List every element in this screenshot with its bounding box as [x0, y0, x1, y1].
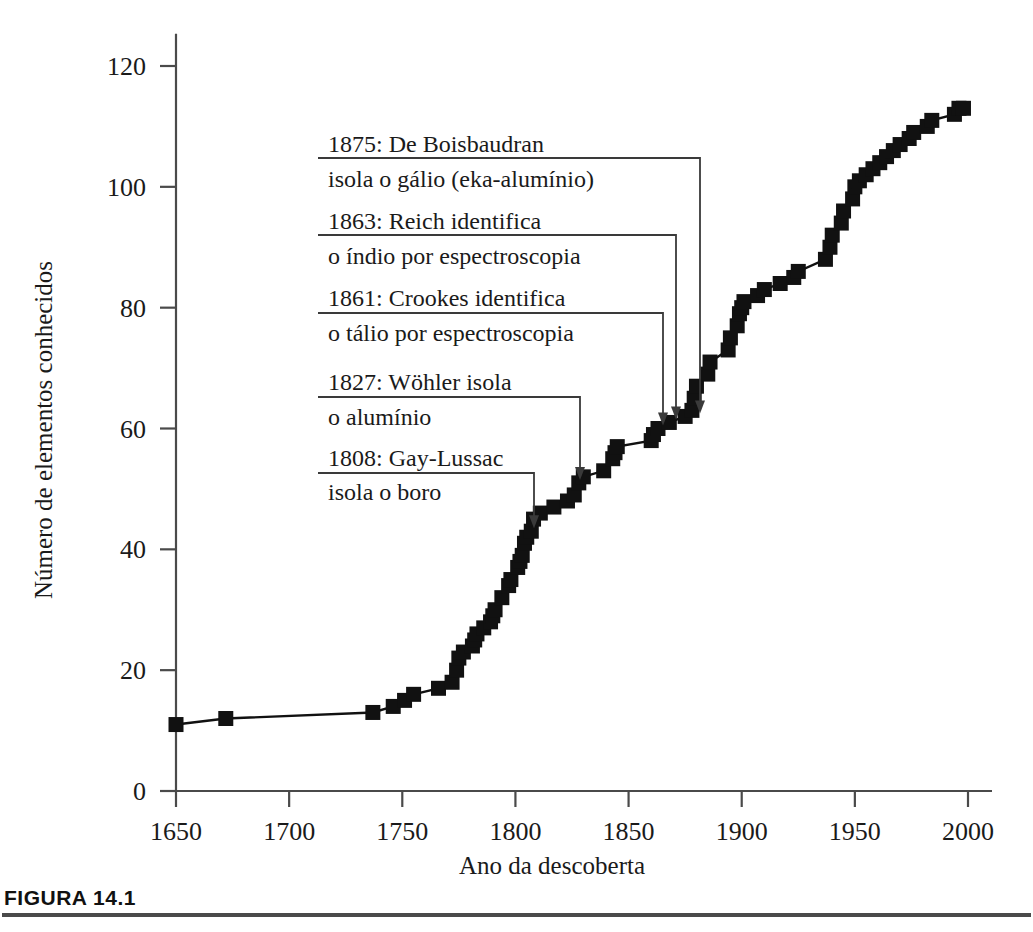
annotation-labels: 1875: De Boisbaudran isola o gálio (eka-… [328, 131, 594, 505]
y-tick-label: 120 [107, 52, 146, 81]
x-tick-label: 1950 [829, 817, 881, 846]
annotation-1861-line2: o tálio por espectroscopia [328, 320, 574, 346]
axes-group [160, 34, 992, 807]
data-point-marker [757, 282, 772, 297]
data-point-marker [610, 439, 625, 454]
y-axis-ticks [160, 66, 176, 791]
y-tick-label: 40 [120, 535, 146, 564]
figure-caption-rule [2, 913, 1031, 917]
x-tick-label: 2000 [942, 817, 994, 846]
series-markers [169, 101, 971, 732]
data-point-marker [703, 355, 718, 370]
annotation-1861-line1: 1861: Crookes identifica [328, 285, 566, 311]
annotation-1863-line1: 1863: Reich identifica [328, 208, 542, 234]
y-axis-tick-labels: 020406080100120 [107, 52, 146, 806]
y-tick-label: 80 [120, 294, 146, 323]
figure-container: 020406080100120 165017001750180018501900… [0, 0, 1033, 932]
data-point-marker [736, 294, 751, 309]
x-axis-ticks [176, 791, 968, 807]
x-tick-label: 1650 [150, 817, 202, 846]
x-tick-label: 1700 [263, 817, 315, 846]
x-tick-label: 1850 [603, 817, 655, 846]
data-point-marker [218, 711, 233, 726]
data-point-marker [431, 681, 446, 696]
data-point-marker [924, 113, 939, 128]
annotation-1827-line2: o alumínio [328, 404, 431, 430]
annotation-1808-line1: 1808: Gay-Lussac [328, 445, 503, 471]
annotation-1827-line1: 1827: Wöhler isola [328, 369, 512, 395]
y-tick-label: 60 [120, 415, 146, 444]
x-tick-label: 1800 [489, 817, 541, 846]
y-tick-label: 0 [133, 777, 146, 806]
x-tick-label: 1900 [716, 817, 768, 846]
data-point-marker [546, 500, 561, 515]
annotation-1875-line1: 1875: De Boisbaudran [328, 131, 544, 157]
data-point-marker [169, 717, 184, 732]
data-point-marker [956, 101, 971, 116]
y-tick-label: 20 [120, 656, 146, 685]
annotation-1808-line2: isola o boro [328, 479, 441, 505]
data-point-marker [406, 687, 421, 702]
y-axis-title: Número de elementos conhecidos [30, 261, 57, 599]
discovery-chart: 020406080100120 165017001750180018501900… [0, 0, 1033, 932]
figure-caption: FIGURA 14.1 [0, 886, 1033, 917]
x-axis-tick-labels: 16501700175018001850190019502000 [150, 817, 994, 846]
annotation-1875-line2: isola o gálio (eka-alumínio) [328, 166, 594, 192]
annotation-1863-line2: o índio por espectroscopia [328, 243, 581, 269]
data-point-marker [906, 125, 921, 140]
data-point-marker [365, 705, 380, 720]
x-tick-label: 1750 [376, 817, 428, 846]
data-series-group [169, 101, 971, 732]
figure-caption-label: FIGURA 14.1 [0, 886, 1033, 910]
data-point-marker [773, 276, 788, 291]
y-tick-label: 100 [107, 173, 146, 202]
x-axis-title: Ano da descoberta [459, 852, 645, 879]
data-point-marker [791, 264, 806, 279]
